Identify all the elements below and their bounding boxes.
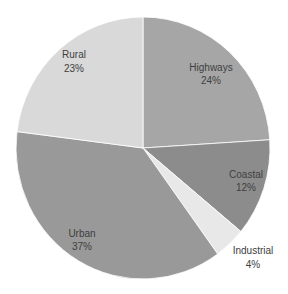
pie-slice-rural — [17, 17, 143, 148]
slice-label-industrial: Industrial4% — [233, 245, 274, 270]
pie-slices — [16, 17, 270, 279]
pie-chart: Highways24% Coastal12% Industrial4% Urba… — [0, 0, 288, 294]
